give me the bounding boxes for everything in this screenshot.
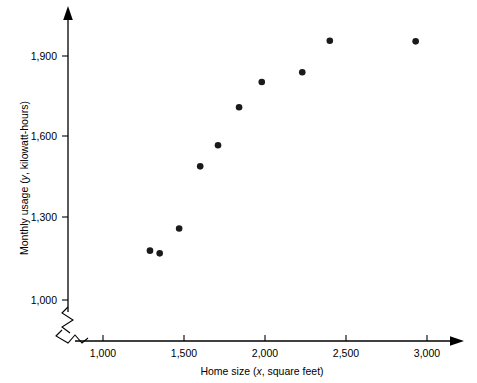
y-axis-title-before: Monthly usage ( [18,180,30,255]
y-tick-label-1600: 1,600 [31,130,57,142]
data-point [258,79,265,86]
data-point [197,163,204,170]
y-tick-label-1000: 1,000 [31,294,57,306]
y-axis-title-after: , kilowatt-hours) [18,101,30,175]
data-point [236,104,243,111]
y-tick-label-1300: 1,300 [31,211,57,223]
x-axis-title: Home size (x, square feet) [200,365,323,377]
x-axis-title-before: Home size ( [200,365,257,377]
y-tick-marks [62,56,68,300]
scatter-plot-figure: 1,900 1,600 1,300 1,000 Monthly usage (y… [0,0,477,383]
data-point [327,38,334,45]
x-axis-group: 1,000 1,500 2,000 2,500 3,000 Home size … [56,330,464,377]
data-point [176,225,183,232]
y-axis-title: Monthly usage (y, kilowatt-hours) [18,101,30,255]
x-axis-title-after: , square feet) [262,365,324,377]
y-axis-title-group: Monthly usage (y, kilowatt-hours) [18,101,30,255]
x-tick-label-1500: 1,500 [171,347,197,359]
y-tick-label-1900: 1,900 [31,50,57,62]
data-point [147,247,154,254]
x-axis-arrowhead [450,336,464,346]
x-tick-marks [103,335,427,341]
y-axis-arrowhead [63,6,73,20]
x-tick-label-3000: 3,000 [414,347,440,359]
x-tick-label-2000: 2,000 [252,347,278,359]
data-point [156,250,163,257]
x-tick-label-2500: 2,500 [333,347,359,359]
x-tick-label-1000: 1,000 [90,347,116,359]
plot-canvas: 1,900 1,600 1,300 1,000 Monthly usage (y… [0,0,477,383]
y-axis-group: 1,900 1,600 1,300 1,000 Monthly usage (y… [18,6,73,333]
data-point [215,142,222,149]
data-point [412,38,419,45]
data-points-layer [147,38,419,257]
data-point [299,69,306,76]
